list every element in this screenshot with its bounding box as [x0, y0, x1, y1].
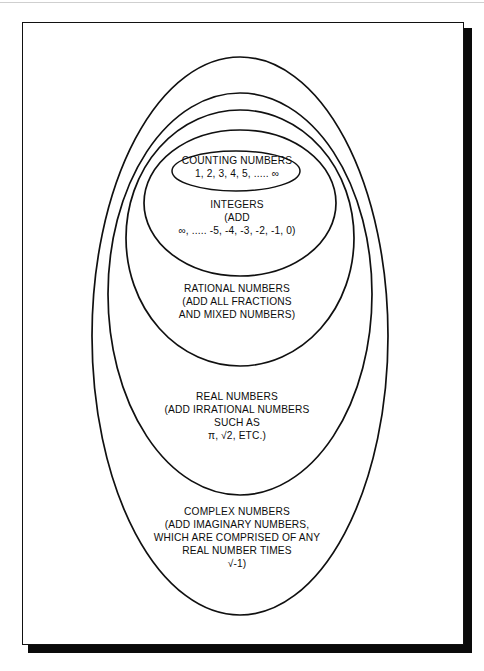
label-rational-numbers: RATIONAL NUMBERS (ADD ALL FRACTIONS AND …	[102, 282, 372, 321]
label-line: REAL NUMBERS	[92, 390, 382, 403]
label-line: SUCH AS	[92, 416, 382, 429]
label-line: (ADD	[112, 211, 362, 224]
label-line: COMPLEX NUMBERS	[82, 505, 392, 518]
label-line: π, √2, ETC.)	[92, 429, 382, 442]
label-complex-numbers: COMPLEX NUMBERS (ADD IMAGINARY NUMBERS, …	[82, 505, 392, 570]
nested-ellipses-group	[0, 0, 484, 671]
ellipse-rational-numbers	[126, 110, 354, 366]
label-line: INTEGERS	[112, 198, 362, 211]
label-line: COUNTING NUMBERS	[142, 154, 332, 167]
label-line: WHICH ARE COMPRISED OF ANY	[82, 531, 392, 544]
diagram-canvas: COUNTING NUMBERS 1, 2, 3, 4, 5, ..... ∞ …	[0, 0, 484, 671]
label-line: (ADD ALL FRACTIONS	[102, 295, 372, 308]
label-line: RATIONAL NUMBERS	[102, 282, 372, 295]
label-counting-numbers: COUNTING NUMBERS 1, 2, 3, 4, 5, ..... ∞	[142, 154, 332, 180]
label-line: REAL NUMBER TIMES	[82, 544, 392, 557]
label-line: 1, 2, 3, 4, 5, ..... ∞	[142, 167, 332, 180]
label-line: AND MIXED NUMBERS)	[102, 308, 372, 321]
label-line: (ADD IMAGINARY NUMBERS,	[82, 518, 392, 531]
label-line: ∞, ..... -5, -4, -3, -2, -1, 0)	[112, 224, 362, 237]
label-real-numbers: REAL NUMBERS (ADD IRRATIONAL NUMBERS SUC…	[92, 390, 382, 442]
label-line: (ADD IRRATIONAL NUMBERS	[92, 403, 382, 416]
label-line: √-1)	[82, 557, 392, 570]
label-integers: INTEGERS (ADD ∞, ..... -5, -4, -3, -2, -…	[112, 198, 362, 237]
